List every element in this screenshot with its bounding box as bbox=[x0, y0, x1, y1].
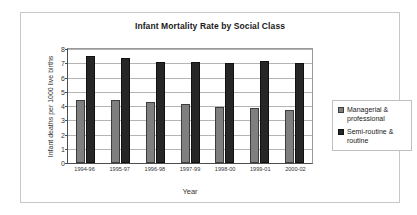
bar-2000-02-series1 bbox=[295, 63, 304, 163]
bar-1997-99-series1 bbox=[191, 62, 200, 163]
chart-frame: Infant Mortality Rate by Social Class In… bbox=[20, 12, 400, 203]
bars-layer bbox=[68, 49, 312, 163]
bar-1998-00-series0 bbox=[215, 107, 224, 163]
y-axis-tick-mark bbox=[65, 163, 68, 164]
x-axis-tick-label: 1995-97 bbox=[102, 166, 137, 172]
bar-group bbox=[242, 49, 277, 163]
bar-1999-01-series0 bbox=[250, 108, 259, 163]
legend-item[interactable]: Managerial & professional bbox=[338, 106, 407, 123]
legend-label: Managerial & professional bbox=[347, 106, 407, 123]
x-axis-tick-label: 1998-00 bbox=[208, 166, 243, 172]
legend-swatch-icon bbox=[338, 129, 344, 135]
x-axis-ticks: 1994-961995-971996-981997-991998-001999-… bbox=[67, 166, 313, 172]
x-axis-tick-label: 1994-96 bbox=[67, 166, 102, 172]
bar-group bbox=[103, 49, 138, 163]
x-axis-label: Year bbox=[67, 187, 313, 196]
bar-1994-96-series1 bbox=[86, 56, 95, 163]
x-axis-tick-label: 2000-02 bbox=[278, 166, 313, 172]
bar-1997-99-series0 bbox=[181, 104, 190, 163]
chart-title: Infant Mortality Rate by Social Class bbox=[21, 21, 399, 31]
x-axis-tick-label: 1997-99 bbox=[172, 166, 207, 172]
bar-1995-97-series1 bbox=[121, 58, 130, 163]
x-axis-tick-label: 1999-01 bbox=[243, 166, 278, 172]
bar-2000-02-series0 bbox=[285, 110, 294, 163]
bar-1999-01-series1 bbox=[260, 61, 269, 163]
y-axis-label: Infant deaths per 1000 live births bbox=[45, 48, 57, 164]
bar-1996-98-series0 bbox=[146, 102, 155, 163]
bar-1996-98-series1 bbox=[156, 62, 165, 163]
plot-area: 012345678 bbox=[67, 48, 313, 164]
chart-legend: Managerial & professionalSemi-routine & … bbox=[332, 100, 412, 151]
legend-label: Semi-routine & routine bbox=[347, 128, 407, 145]
bar-group bbox=[277, 49, 312, 163]
bar-group bbox=[173, 49, 208, 163]
bar-group bbox=[138, 49, 173, 163]
y-axis-label-text: Infant deaths per 1000 live births bbox=[48, 55, 55, 157]
legend-swatch-icon bbox=[338, 107, 344, 113]
bar-group bbox=[68, 49, 103, 163]
bar-group bbox=[207, 49, 242, 163]
bar-1998-00-series1 bbox=[225, 63, 234, 163]
x-axis-tick-label: 1996-98 bbox=[137, 166, 172, 172]
bar-1995-97-series0 bbox=[111, 100, 120, 163]
legend-item[interactable]: Semi-routine & routine bbox=[338, 128, 407, 145]
bar-1994-96-series0 bbox=[76, 100, 85, 163]
